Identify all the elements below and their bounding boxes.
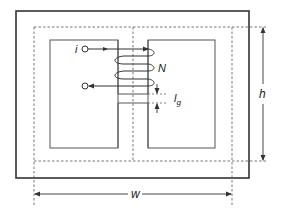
mean-path-dashed (34, 27, 266, 207)
gap-label-subscript: g (176, 98, 181, 107)
output-terminal-icon (82, 83, 88, 89)
core-window-left (50, 40, 118, 148)
width-label: w (131, 187, 141, 201)
gap-dimension (148, 84, 168, 113)
turns-label: N (158, 62, 166, 74)
current-label: i (75, 43, 78, 55)
gap-length-label: lg (174, 92, 181, 107)
core-window-right (148, 40, 215, 148)
current-direction-arrow-icon (103, 47, 108, 51)
input-terminal-icon (82, 46, 88, 52)
height-label: h (259, 87, 266, 101)
magnetic-core-diagram: i N lg h w (0, 0, 290, 217)
